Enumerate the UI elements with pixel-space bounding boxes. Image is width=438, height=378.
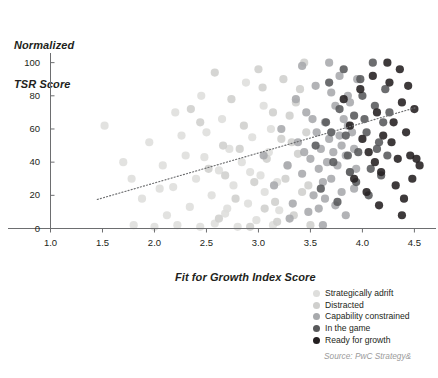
x-axis-tick-label: 2.0 [139, 237, 169, 248]
legend-dot-icon [313, 325, 320, 332]
data-point [279, 75, 287, 83]
data-point [329, 158, 337, 166]
legend-item[interactable]: In the game [313, 323, 438, 335]
data-point [322, 118, 330, 126]
data-point [275, 206, 283, 214]
data-point [358, 135, 366, 143]
data-point [196, 118, 204, 126]
data-point [340, 65, 348, 73]
data-point [338, 188, 346, 196]
data-point [296, 85, 304, 93]
data-point [248, 133, 256, 141]
data-point [375, 201, 383, 209]
data-point [392, 181, 400, 189]
data-point [260, 102, 268, 110]
data-point [309, 191, 317, 199]
data-point [252, 216, 260, 224]
data-point [333, 198, 341, 206]
data-point [286, 112, 294, 120]
x-axis-tick-label: 3.5 [295, 237, 325, 248]
legend-item[interactable]: Capability constrained [313, 311, 438, 323]
data-point [246, 223, 254, 231]
data-point [325, 59, 333, 67]
y-axis-tick-label: 80 [14, 90, 40, 101]
data-point [356, 85, 364, 93]
data-point [145, 138, 153, 146]
data-point [156, 185, 164, 193]
data-point [202, 128, 210, 136]
data-point [354, 148, 362, 156]
data-point [342, 211, 350, 219]
data-point [298, 188, 306, 196]
data-point [325, 78, 333, 86]
x-axis-tick-label: 3.0 [243, 237, 273, 248]
data-point [398, 211, 406, 219]
data-point [192, 175, 200, 183]
data-point [292, 95, 300, 103]
data-point [163, 211, 171, 219]
legend-item-label: Capability constrained [325, 311, 410, 322]
data-point [219, 141, 227, 149]
data-point [256, 171, 264, 179]
data-point [281, 175, 289, 183]
data-point [335, 105, 343, 113]
data-point [300, 148, 308, 156]
legend-dot-icon [313, 290, 320, 297]
data-point [261, 188, 269, 196]
data-point [267, 125, 275, 133]
data-point [342, 132, 350, 140]
data-point [298, 170, 306, 178]
x-axis-tick-label: 4.5 [399, 237, 429, 248]
data-point [221, 171, 229, 179]
data-point [327, 175, 335, 183]
data-point [373, 145, 381, 153]
data-point [169, 183, 177, 191]
x-axis-tick-label: 1.5 [87, 237, 117, 248]
legend-item[interactable]: Strategically adrift [313, 288, 438, 300]
scatter-chart: Normalized TSR Score Fit for Growth Inde… [0, 0, 438, 378]
legend-item[interactable]: Distracted [313, 300, 438, 312]
data-point [387, 138, 395, 146]
data-point [231, 195, 239, 203]
data-point [246, 168, 254, 176]
data-point [240, 122, 248, 130]
data-point [250, 178, 258, 186]
legend-item[interactable]: Ready for growth [313, 334, 438, 346]
legend: Strategically adriftDistractedCapability… [313, 288, 438, 346]
data-point [416, 161, 424, 169]
data-point [402, 128, 410, 136]
data-point [321, 195, 329, 203]
data-point [100, 122, 108, 130]
data-point [286, 214, 294, 222]
y-axis-tick-label: 100 [14, 57, 40, 68]
data-point [208, 191, 216, 199]
data-point [400, 195, 408, 203]
data-point [379, 118, 387, 126]
data-point [390, 118, 398, 126]
data-point [385, 78, 393, 86]
data-point [356, 75, 364, 83]
data-point [371, 158, 379, 166]
data-point [277, 135, 285, 143]
data-point [234, 223, 242, 231]
data-point [238, 158, 246, 166]
data-point [312, 82, 320, 90]
data-point [289, 200, 297, 208]
data-point [383, 59, 391, 67]
data-point [261, 205, 269, 213]
data-point [298, 62, 306, 70]
y-axis-tick-label: 20 [14, 189, 40, 200]
data-point [270, 181, 278, 189]
x-axis-tick-label: 4.0 [347, 237, 377, 248]
x-axis-tick-label: 2.5 [191, 237, 221, 248]
data-point [138, 195, 146, 203]
data-point [200, 153, 208, 161]
data-point [171, 108, 179, 116]
x-axis-tick-label: 1.0 [36, 237, 66, 248]
data-point [304, 208, 312, 216]
data-point [302, 108, 310, 116]
data-point [369, 72, 377, 80]
data-point [344, 151, 352, 159]
data-point [223, 205, 231, 213]
data-point [197, 92, 205, 100]
